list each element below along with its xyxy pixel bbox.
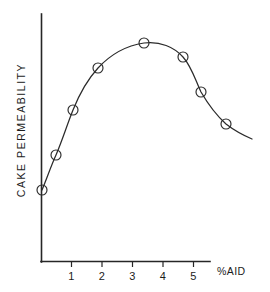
x-tick-label-1: 1 [68, 270, 74, 282]
x-tick-label-5: 5 [190, 270, 196, 282]
x-axis-title: %AID [217, 265, 245, 277]
data-point-markers [37, 38, 231, 195]
x-tick-label-2: 2 [99, 270, 105, 282]
x-axis-tick-labels: 1 2 3 4 5 [68, 270, 196, 282]
data-curve [42, 43, 252, 190]
y-axis-title: CAKE PERMEABILITY [15, 63, 27, 197]
x-tick-label-3: 3 [129, 270, 135, 282]
plot-area: 1 2 3 4 5 %AID CAKE PERMEABILITY [0, 0, 270, 292]
chart-figure: 1 2 3 4 5 %AID CAKE PERMEABILITY [0, 0, 270, 292]
x-tick-label-4: 4 [160, 270, 166, 282]
